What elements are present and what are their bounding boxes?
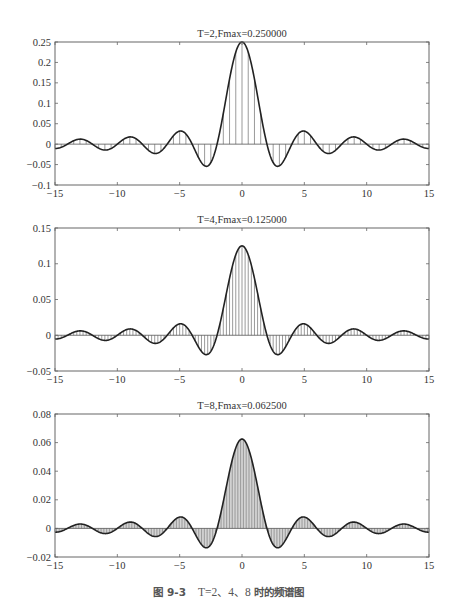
- y-tick-label: 0.06: [33, 437, 51, 448]
- x-tick-label: −10: [109, 374, 125, 385]
- y-tick-label: 0.08: [33, 409, 51, 420]
- x-tick-label: 0: [239, 374, 244, 385]
- x-tick-label: 10: [361, 374, 372, 385]
- x-tick-label: −10: [109, 188, 125, 199]
- y-tick-label: 0.1: [38, 258, 51, 269]
- x-tick-label: 15: [424, 374, 435, 385]
- y-tick-label: 0.15: [33, 77, 51, 88]
- plot-title: T=8,Fmax=0.062500: [197, 400, 286, 411]
- x-tick-label: 0: [239, 560, 244, 571]
- x-tick-label: −5: [174, 374, 185, 385]
- y-tick-label: 0.1: [38, 98, 51, 109]
- x-tick-label: 5: [302, 560, 307, 571]
- x-tick-label: 0: [239, 188, 244, 199]
- y-tick-label: −0.02: [27, 552, 51, 563]
- caption-text: T=2、4、8: [198, 586, 251, 598]
- y-tick-label: −0.05: [27, 366, 51, 377]
- x-tick-label: 10: [361, 560, 372, 571]
- x-tick-label: 5: [302, 374, 307, 385]
- y-tick-label: 0.05: [33, 118, 51, 129]
- plot-t2: T=2,Fmax=0.250000−15−10−50510150.250.20.…: [27, 28, 435, 199]
- spectrum-figure: T=2,Fmax=0.250000−15−10−50510150.250.20.…: [0, 0, 457, 615]
- y-tick-label: 0: [46, 523, 51, 534]
- y-tick-label: 0.05: [33, 294, 51, 305]
- x-tick-label: −10: [109, 560, 125, 571]
- figure-number: 图 9-3: [153, 586, 186, 598]
- y-tick-label: −0.05: [27, 159, 51, 170]
- x-tick-label: 15: [424, 188, 435, 199]
- y-tick-label: 0.2: [38, 57, 51, 68]
- y-tick-label: 0: [46, 139, 51, 150]
- x-tick-label: −5: [174, 188, 185, 199]
- x-tick-label: 5: [302, 188, 307, 199]
- plot-title: T=4,Fmax=0.125000: [197, 214, 286, 225]
- y-tick-label: −0.1: [32, 180, 51, 191]
- y-tick-label: 0.04: [33, 466, 52, 477]
- plot-t4: T=4,Fmax=0.125000−15−10−50510150.150.10.…: [27, 214, 435, 385]
- y-tick-label: 0.15: [33, 223, 51, 234]
- caption-suffix: 时的频谱图: [254, 586, 304, 598]
- plot-t8: T=8,Fmax=0.062500−15−10−50510150.080.060…: [27, 400, 435, 571]
- y-tick-label: 0.25: [33, 37, 51, 48]
- y-tick-label: 0.02: [33, 494, 51, 505]
- y-tick-label: 0: [46, 330, 51, 341]
- plot-title: T=2,Fmax=0.250000: [197, 28, 286, 39]
- figure-caption: 图 9-3T=2、4、8 时的频谱图: [0, 583, 457, 599]
- x-tick-label: 10: [361, 188, 372, 199]
- x-tick-label: −5: [174, 560, 185, 571]
- x-tick-label: 15: [424, 560, 435, 571]
